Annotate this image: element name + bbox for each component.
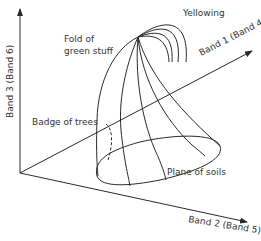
soil-plane-ellipse (96, 136, 220, 185)
fold-label-line2: green stuff (64, 46, 114, 56)
band1-axis (20, 51, 252, 173)
plane-label: Plane of soils (167, 167, 226, 177)
badge-label: Badge of trees (32, 117, 98, 127)
band2-axis (20, 173, 247, 222)
band3-axis-label: Band 3 (Band 6) (5, 45, 15, 118)
cone-left-edge (97, 37, 138, 176)
fold-label-line1: Fold of (64, 34, 95, 44)
yellowing-label: Yellowing (182, 8, 225, 18)
tasseled-cap-diagram: Band 3 (Band 6) Band 1 (Band 4) Band 2 (… (0, 0, 261, 241)
badge-of-trees-dashed (106, 124, 112, 160)
cone-line-1 (120, 37, 138, 186)
